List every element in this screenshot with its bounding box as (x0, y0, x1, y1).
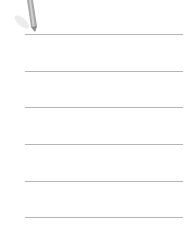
writing-line (25, 144, 183, 145)
pencil-icon (12, 0, 42, 34)
writing-line (25, 107, 183, 108)
writing-line (25, 217, 183, 218)
writing-line (25, 181, 183, 182)
writing-line (25, 34, 183, 35)
writing-line (25, 71, 183, 72)
